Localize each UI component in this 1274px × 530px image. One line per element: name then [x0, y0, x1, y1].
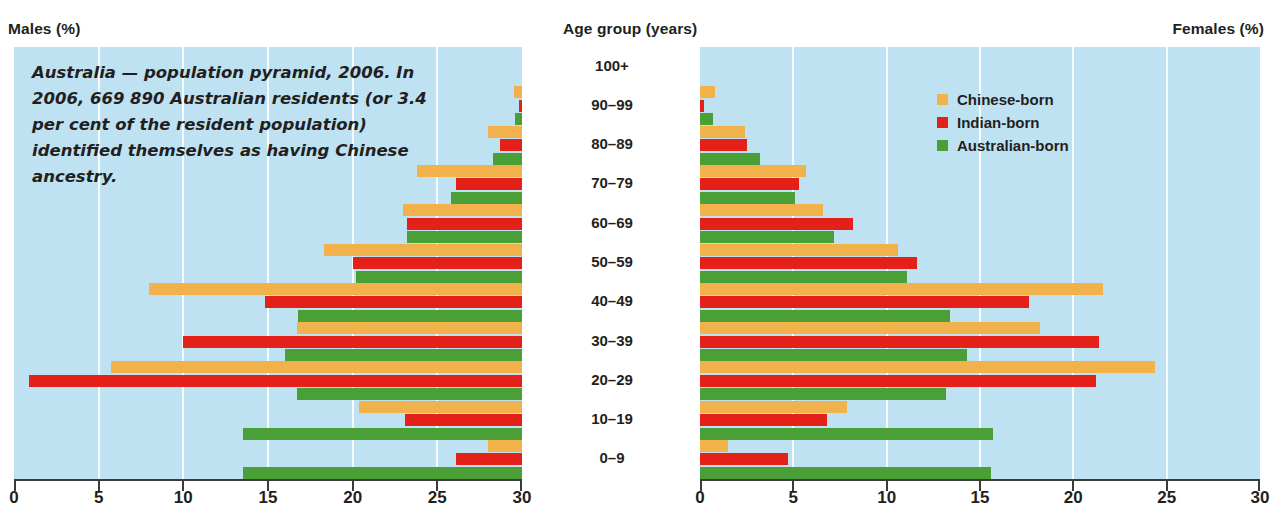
bar-males-chinese-born-10-19	[359, 401, 522, 413]
age-group-label-0-9: 0–9	[524, 449, 700, 466]
figure-caption: Australia — population pyramid, 2006. In…	[32, 60, 462, 190]
legend-label: Australian-born	[957, 137, 1069, 154]
males-x-axis: 302520151050	[14, 479, 522, 507]
bar-females-chinese-born-20-29	[700, 361, 1155, 373]
legend-swatch-icon	[937, 94, 948, 105]
legend-label: Chinese-born	[957, 91, 1054, 108]
legend-item-australian-born[interactable]: Australian-born	[937, 134, 1069, 157]
bar-group-60-69	[700, 204, 1260, 243]
bar-males-chinese-born-80-89	[488, 126, 522, 138]
bar-females-chinese-born-30-39	[700, 322, 1040, 334]
bar-females-australian-born-70-79	[700, 192, 795, 204]
bar-males-australian-born-90-99	[515, 113, 522, 125]
axis-tick-label: 10	[877, 488, 896, 508]
bar-group-30-39	[14, 322, 522, 361]
population-pyramid-figure: Males (%) Age group (years) Females (%) …	[0, 0, 1274, 530]
age-group-label-90-99: 90–99	[524, 96, 700, 113]
legend-label: Indian-born	[957, 114, 1040, 131]
bar-group-50-59	[700, 244, 1260, 283]
legend-swatch-icon	[937, 140, 948, 151]
bar-females-australian-born-80-89	[700, 153, 760, 165]
axis-tick-label: 0	[695, 488, 704, 508]
age-group-label-70-79: 70–79	[524, 174, 700, 191]
bar-group-10-19	[700, 401, 1260, 440]
bar-males-australian-born-10-19	[243, 428, 522, 440]
age-group-label-80-89: 80–89	[524, 135, 700, 152]
bar-females-indian-born-40-49	[700, 296, 1029, 308]
bar-males-indian-born-70-79	[456, 178, 522, 190]
bar-females-australian-born-30-39	[700, 349, 967, 361]
bar-males-indian-born-60-69	[407, 218, 522, 230]
bar-females-chinese-born-0-9	[700, 440, 728, 452]
age-group-label-40-49: 40–49	[524, 292, 700, 309]
bar-females-chinese-born-10-19	[700, 401, 847, 413]
bar-males-australian-born-50-59	[356, 271, 522, 283]
bar-females-australian-born-40-49	[700, 310, 950, 322]
bar-group-100+	[700, 47, 1260, 86]
bar-group-60-69	[14, 204, 522, 243]
bar-males-indian-born-80-89	[500, 139, 522, 151]
bar-males-chinese-born-40-49	[149, 283, 522, 295]
axis-tick-label: 30	[1251, 488, 1270, 508]
axis-tick-label: 5	[94, 488, 103, 508]
age-group-label-50-59: 50–59	[524, 253, 700, 270]
bar-males-indian-born-10-19	[405, 414, 522, 426]
bar-males-chinese-born-0-9	[488, 440, 522, 452]
axis-tick-label: 30	[513, 488, 532, 508]
bar-females-indian-born-90-99	[700, 100, 704, 112]
legend-item-indian-born[interactable]: Indian-born	[937, 111, 1069, 134]
bar-group-0-9	[700, 440, 1260, 479]
bar-females-indian-born-50-59	[700, 257, 917, 269]
bar-males-indian-born-40-49	[265, 296, 522, 308]
bar-females-indian-born-60-69	[700, 218, 853, 230]
bar-males-australian-born-0-9	[243, 467, 522, 479]
bar-group-30-39	[700, 322, 1260, 361]
bar-males-indian-born-90-99	[519, 100, 522, 112]
age-group-label-100+: 100+	[524, 57, 700, 74]
bar-males-chinese-born-20-29	[111, 361, 522, 373]
bar-females-chinese-born-90-99	[700, 86, 715, 98]
axis-tick-label: 25	[1157, 488, 1176, 508]
legend: Chinese-bornIndian-bornAustralian-born	[937, 88, 1069, 157]
bar-females-indian-born-70-79	[700, 178, 799, 190]
bar-females-indian-born-80-89	[700, 139, 747, 151]
age-group-label-10-19: 10–19	[524, 410, 700, 427]
females-axis-title: Females (%)	[1172, 20, 1264, 38]
bar-males-australian-born-20-29	[297, 388, 522, 400]
bar-group-40-49	[700, 283, 1260, 322]
axis-tick-label: 20	[343, 488, 362, 508]
bar-group-50-59	[14, 244, 522, 283]
axis-tick-label: 5	[789, 488, 798, 508]
bar-females-indian-born-10-19	[700, 414, 827, 426]
bar-females-australian-born-60-69	[700, 231, 834, 243]
age-group-axis: 100+90–9980–8970–7960–6950–5940–4930–392…	[524, 47, 700, 479]
axis-tick-label: 0	[9, 488, 18, 508]
axis-tick-label: 10	[174, 488, 193, 508]
bar-males-australian-born-80-89	[493, 153, 522, 165]
bar-males-chinese-born-50-59	[324, 244, 522, 256]
axis-tick-label: 15	[259, 488, 278, 508]
legend-item-chinese-born[interactable]: Chinese-born	[937, 88, 1069, 111]
axis-tick-label: 20	[1064, 488, 1083, 508]
bar-males-chinese-born-60-69	[403, 204, 522, 216]
bar-females-chinese-born-60-69	[700, 204, 823, 216]
bar-males-australian-born-40-49	[298, 310, 522, 322]
axis-tick-label: 15	[971, 488, 990, 508]
bar-males-indian-born-20-29	[29, 375, 522, 387]
bar-males-chinese-born-90-99	[514, 86, 522, 98]
bar-females-indian-born-30-39	[700, 336, 1099, 348]
bar-females-australian-born-0-9	[700, 467, 991, 479]
bar-group-20-29	[700, 361, 1260, 400]
bar-males-australian-born-70-79	[451, 192, 522, 204]
age-group-label-30-39: 30–39	[524, 332, 700, 349]
bar-females-indian-born-0-9	[700, 453, 788, 465]
bar-females-australian-born-20-29	[700, 388, 946, 400]
bar-males-chinese-born-30-39	[297, 322, 522, 334]
bar-group-40-49	[14, 283, 522, 322]
bar-group-0-9	[14, 440, 522, 479]
bar-females-chinese-born-70-79	[700, 165, 806, 177]
bar-group-70-79	[700, 165, 1260, 204]
bar-males-indian-born-50-59	[353, 257, 522, 269]
males-axis-title: Males (%)	[8, 20, 80, 38]
bar-females-chinese-born-80-89	[700, 126, 745, 138]
